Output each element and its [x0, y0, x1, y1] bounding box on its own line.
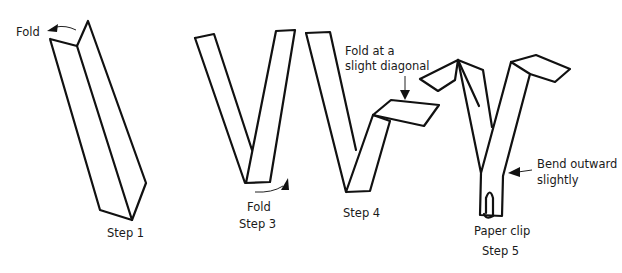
step3-fold-label: Fold: [247, 200, 271, 215]
step4-diagonal-line1: Fold at a: [345, 44, 395, 59]
step1-folded-strip: [47, 21, 146, 220]
step3-fold-arrowhead-icon: [281, 178, 289, 190]
step5-label: Step 5: [482, 244, 519, 259]
folding-diagram: Fold Step 1 Fold Step 3 Fold at a slight…: [0, 0, 622, 273]
step5-bend-line1: Bend outward: [537, 157, 617, 172]
step5-shape: [458, 55, 570, 218]
step5-paperclip-label: Paper clip: [474, 224, 530, 239]
step1-label: Step 1: [107, 226, 144, 241]
step1-fold-label: Fold: [16, 25, 40, 40]
step4-diagonal-line2: slight diagonal: [345, 59, 430, 74]
step4-arrow-down-icon: [400, 90, 410, 100]
step4-label: Step 4: [343, 206, 380, 221]
step3-label: Step 3: [239, 217, 276, 232]
step5-bend-arrow-icon: [508, 167, 520, 177]
step3-v-shape: [195, 30, 295, 192]
step1-fold-arrowhead-icon: [47, 24, 58, 32]
step5-bend-line2: slightly: [537, 173, 578, 188]
